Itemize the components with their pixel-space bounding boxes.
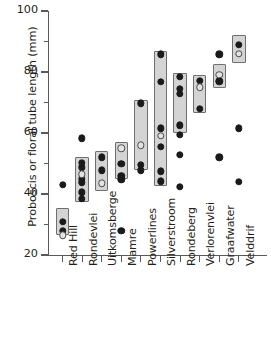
y-axis-line [48, 11, 49, 256]
x-tick-rondeberg [180, 256, 181, 262]
x-tick-label-uitkomsberge: Uitkomsberge [106, 191, 119, 266]
y-tick-60: 60 [41, 132, 48, 133]
data-point-closed-rondeberg [176, 183, 183, 190]
x-tick-label-velddrif: Velddrif [244, 225, 257, 266]
y-tick-label-100: 100 [17, 3, 38, 16]
x-tick-label-mamre: Mamre [126, 228, 139, 266]
y-tick-100: 100 [41, 10, 48, 11]
x-tick-label-red-hill: Red Hill [67, 225, 80, 266]
data-point-closed-velddrif [235, 125, 242, 132]
data-point-closed-rondeberg [176, 151, 183, 158]
y-tick-label-60: 60 [24, 125, 38, 138]
x-tick-powerlines [140, 256, 141, 262]
x-tick-label-rondeberg: Rondeberg [185, 207, 198, 266]
y-tick-label-20: 20 [24, 247, 38, 260]
y-minor-tick-90 [44, 41, 49, 42]
x-tick-graafwater [219, 256, 220, 262]
x-tick-label-graafwater: Graafwater [224, 205, 237, 266]
x-tick-label-powerlines: Powerlines [146, 208, 159, 266]
data-point-closed-red-hill [59, 181, 66, 188]
x-tick-silverstroom [160, 256, 161, 262]
scatter-chart: Proboscis or floral tube length (mm) 204… [0, 0, 271, 354]
y-tick-20: 20 [41, 254, 48, 255]
x-tick-uitkomsberge [101, 256, 102, 262]
range-box-silverstroom [154, 51, 168, 187]
y-tick-label-80: 80 [24, 64, 38, 77]
x-tick-label-rondevlei: Rondevlei [87, 213, 100, 266]
data-point-closed-powerlines [137, 167, 144, 174]
data-point-closed-graafwater [216, 51, 223, 58]
x-tick-red-hill [62, 256, 63, 262]
y-minor-tick-70 [44, 102, 49, 103]
x-tick-mamre [121, 256, 122, 262]
data-point-closed-rondevlei [78, 135, 85, 142]
data-point-open-red-hill [59, 231, 66, 238]
data-point-closed-rondeberg [176, 131, 183, 138]
y-minor-tick-50 [44, 163, 49, 164]
range-box-powerlines [134, 100, 148, 170]
y-tick-40: 40 [41, 193, 48, 194]
x-tick-verlorenvlei [199, 256, 200, 262]
data-point-closed-graafwater [216, 154, 223, 161]
x-tick-label-silverstroom: Silverstroom [165, 198, 178, 266]
y-tick-80: 80 [41, 71, 48, 72]
x-tick-label-verlorenvlei: Verlorenvlei [204, 202, 217, 266]
x-tick-velddrif [238, 256, 239, 262]
data-point-closed-mamre [118, 176, 125, 183]
y-tick-label-40: 40 [24, 186, 38, 199]
x-tick-rondevlei [82, 256, 83, 262]
y-minor-tick-30 [44, 224, 49, 225]
data-point-closed-velddrif [235, 178, 242, 185]
